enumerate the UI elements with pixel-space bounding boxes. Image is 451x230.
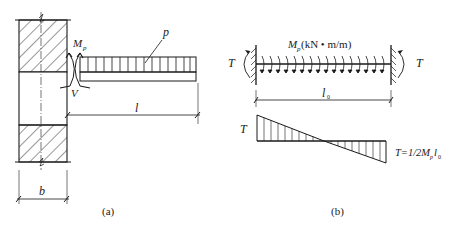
caption-b: (b): [331, 205, 344, 218]
distributed-load: [80, 40, 196, 72]
cantilever-slab: [80, 72, 196, 81]
formula-l: l: [434, 147, 437, 158]
torque-diagram-label: T: [240, 122, 248, 136]
span-label-l0: l: [322, 86, 326, 100]
span-dimension: [65, 83, 200, 124]
distributed-moment-units: (kN • m/m): [301, 38, 352, 51]
figure-a: p M p V l b (a): [15, 12, 200, 218]
left-fixed-support: [251, 45, 256, 85]
formula-main: T=1/2M: [395, 147, 431, 158]
torque-formula: T=1/2M: [395, 147, 431, 158]
span-label-l: l: [135, 101, 139, 115]
torque-diagram: [257, 115, 386, 163]
formula-sub-p: p: [429, 154, 433, 160]
width-label-b: b: [39, 184, 45, 198]
torque-label-right: T: [416, 56, 424, 70]
caption-a: (a): [102, 205, 115, 218]
structural-diagram: p M p V l b (a): [0, 0, 451, 230]
left-torque-arrow: [244, 50, 250, 78]
formula-sub-0: 0: [438, 154, 441, 160]
span-label-sub: 0: [327, 94, 330, 100]
shear-label-V: V: [71, 87, 79, 99]
wall-column: [15, 12, 71, 170]
torque-label-left: T: [228, 56, 236, 70]
right-fixed-support: [391, 45, 396, 85]
figure-b: M p (kN • m/m): [228, 38, 441, 218]
right-torque-arrow: [398, 50, 404, 78]
moment-label-M: M: [72, 37, 83, 49]
load-label-p: p: [162, 25, 169, 39]
moment-label-sub: p: [82, 44, 87, 52]
